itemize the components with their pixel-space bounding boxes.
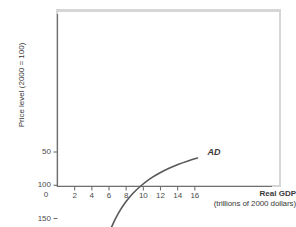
y-tick-label: 150 (22, 214, 51, 223)
y-axis-label-container: Price level (2000 = 100) (15, 25, 29, 145)
x-axis-label-container: Real GDP (trillions of 2000 dollars) (196, 189, 296, 208)
y-axis-label: Price level (2000 = 100) (15, 25, 29, 145)
y-tick-label: 50 (22, 147, 51, 156)
x-axis-ticks (75, 187, 195, 191)
origin-tick-label: 0 (40, 190, 52, 199)
x-axis-label: Real GDP (196, 189, 296, 198)
x-axis-label-units: (trillions of 2000 dollars) (196, 199, 296, 208)
ad-curve-annotation: AD (207, 147, 220, 157)
y-tick-label: 100 (22, 180, 51, 189)
chart-figure: Price level (2000 = 100) 0 246810121416 … (0, 0, 296, 227)
